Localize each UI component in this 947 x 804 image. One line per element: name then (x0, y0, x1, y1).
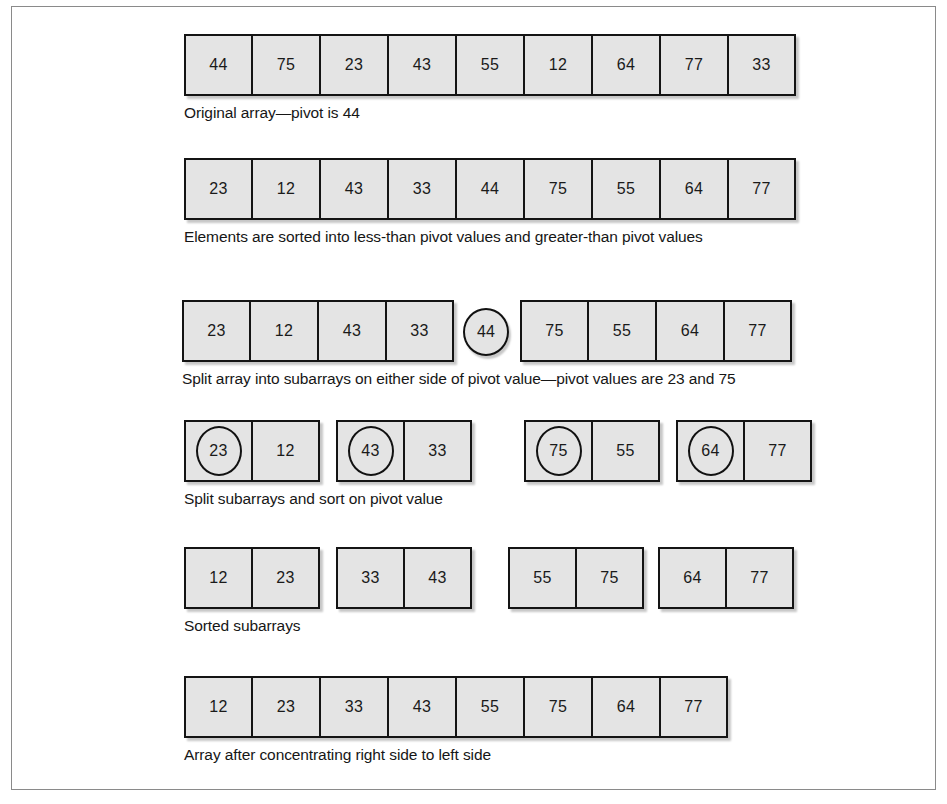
cell-value: 64 (685, 181, 703, 197)
cell-value: 75 (549, 181, 567, 197)
cell-value: 55 (481, 699, 499, 715)
cell-value: 23 (209, 443, 227, 459)
array-cell: 12 (184, 547, 252, 609)
group-sorted-1: 1223 (184, 547, 320, 609)
pivot-circle: 44 (463, 308, 509, 356)
array-cell: 33 (404, 420, 472, 482)
array-cell: 33 (728, 34, 796, 96)
array-cell: 23 (184, 158, 252, 220)
array-cell: 77 (660, 676, 728, 738)
array-cell: 43 (318, 300, 386, 362)
cell-value: 12 (549, 57, 567, 73)
array-cell: 12 (524, 34, 592, 96)
array-cell: 75 (520, 300, 588, 362)
cell-value: 64 (617, 57, 635, 73)
array-cell-pivot: 43 (336, 420, 404, 482)
cell-value: 44 (209, 57, 227, 73)
cell-value: 64 (683, 570, 701, 586)
cell-value: 55 (617, 181, 635, 197)
stage-caption: Split subarrays and sort on pivot value (184, 490, 443, 508)
cell-value: 12 (275, 323, 293, 339)
array-cell: 44 (184, 34, 252, 96)
array-cell: 75 (524, 676, 592, 738)
cell-value: 64 (701, 443, 719, 459)
cell-value: 55 (533, 570, 551, 586)
figure-frame: 447523435512647733Original array—pivot i… (11, 6, 936, 790)
cell-value: 43 (345, 181, 363, 197)
cell-value: 12 (209, 570, 227, 586)
cell-value: 23 (209, 181, 227, 197)
array-cell: 77 (728, 158, 796, 220)
array-cell-pivot: 75 (524, 420, 592, 482)
array-cell: 12 (250, 300, 318, 362)
cell-value: 75 (600, 570, 618, 586)
cell-value: 55 (616, 443, 634, 459)
array-cell: 55 (588, 300, 656, 362)
array-cell: 23 (182, 300, 250, 362)
cell-value: 23 (277, 699, 295, 715)
group-left-subarray: 23124333 (182, 300, 454, 362)
cell-value: 77 (768, 443, 786, 459)
array-cell: 64 (658, 547, 726, 609)
cell-value: 75 (277, 57, 295, 73)
cell-value: 55 (481, 57, 499, 73)
array-cell: 64 (660, 158, 728, 220)
group-final-array: 1223334355756477 (184, 676, 728, 738)
array-cell: 64 (656, 300, 724, 362)
cell-value: 12 (276, 443, 294, 459)
cell-value: 12 (209, 699, 227, 715)
cell-value: 33 (752, 57, 770, 73)
array-cell: 55 (456, 34, 524, 96)
array-cell: 75 (576, 547, 644, 609)
array-cell: 77 (744, 420, 812, 482)
group-sorted-4: 6477 (658, 547, 794, 609)
group-sub-2: 4333 (336, 420, 472, 482)
cell-value: 43 (428, 570, 446, 586)
array-cell: 12 (252, 420, 320, 482)
cell-value: 23 (276, 570, 294, 586)
array-cell: 55 (592, 420, 660, 482)
cell-value: 64 (617, 699, 635, 715)
cell-value: 77 (752, 181, 770, 197)
array-cell: 33 (388, 158, 456, 220)
group-sorted-2: 3343 (336, 547, 472, 609)
array-cell: 23 (252, 547, 320, 609)
cell-value: 33 (410, 323, 428, 339)
array-cell: 43 (388, 34, 456, 96)
array-cell: 33 (336, 547, 404, 609)
array-cell: 33 (386, 300, 454, 362)
stage-caption: Elements are sorted into less-than pivot… (184, 228, 703, 246)
array-cell: 23 (320, 34, 388, 96)
group-sub-1: 2312 (184, 420, 320, 482)
array-cell: 12 (184, 676, 252, 738)
stage-caption: Original array—pivot is 44 (184, 104, 360, 122)
array-cell: 77 (724, 300, 792, 362)
cell-value: 77 (684, 699, 702, 715)
cell-value: 43 (413, 699, 431, 715)
cell-value: 75 (549, 443, 567, 459)
cell-value: 33 (413, 181, 431, 197)
cell-value: 64 (681, 323, 699, 339)
array-cell-pivot: 23 (184, 420, 252, 482)
array-cell: 77 (660, 34, 728, 96)
cell-value: 77 (750, 570, 768, 586)
cell-value: 77 (685, 57, 703, 73)
array-cell: 64 (592, 34, 660, 96)
array-cell: 44 (456, 158, 524, 220)
cell-value: 43 (343, 323, 361, 339)
group-sorted-3: 5575 (508, 547, 644, 609)
cell-value: 33 (428, 443, 446, 459)
group-sub-4: 6477 (676, 420, 812, 482)
stage-caption: Split array into subarrays on either sid… (182, 370, 735, 388)
stage-caption: Sorted subarrays (184, 617, 300, 635)
array-cell: 43 (404, 547, 472, 609)
array-cell: 43 (388, 676, 456, 738)
cell-value: 75 (549, 699, 567, 715)
array-cell: 55 (592, 158, 660, 220)
group-partitioned-array: 231243334475556477 (184, 158, 796, 220)
group-full-array: 447523435512647733 (184, 34, 796, 96)
group-sub-3: 7555 (524, 420, 660, 482)
cell-value: 44 (481, 181, 499, 197)
cell-value: 77 (748, 323, 766, 339)
array-cell: 64 (592, 676, 660, 738)
